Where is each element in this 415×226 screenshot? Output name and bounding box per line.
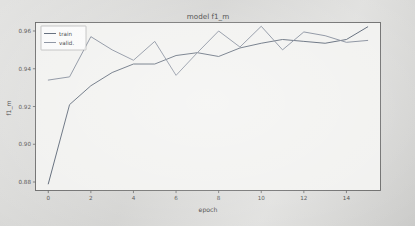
legend: train valid.: [41, 26, 86, 50]
legend-label-valid: valid.: [59, 40, 74, 46]
plot-area-background: [36, 23, 381, 191]
y-tick-label: 0.88: [19, 179, 32, 185]
x-tick-label: 2: [89, 195, 93, 201]
x-tick-label: 4: [132, 195, 136, 201]
x-tick-label: 10: [258, 195, 266, 201]
y-tick-label: 0.94: [19, 66, 32, 72]
y-tick-label: 0.96: [19, 28, 32, 34]
chart-title: model f1_m: [187, 12, 229, 21]
line-chart: model f1_m 0.880.900.920.940.96 02468101…: [0, 0, 415, 226]
x-tick-label: 6: [174, 195, 178, 201]
y-tick-label: 0.90: [19, 141, 32, 147]
chart-figure: model f1_m 0.880.900.920.940.96 02468101…: [0, 0, 415, 226]
x-axis-ticks: 02468101214: [46, 191, 350, 201]
y-axis-ticks: 0.880.900.920.940.96: [19, 28, 36, 185]
x-axis-label: epoch: [199, 206, 218, 214]
x-tick-label: 8: [217, 195, 221, 201]
x-tick-label: 14: [343, 195, 351, 201]
x-tick-label: 0: [46, 195, 50, 201]
y-axis-label: f1_m: [5, 100, 13, 115]
legend-background: [41, 26, 86, 50]
legend-label-train: train: [59, 31, 72, 37]
y-tick-label: 0.92: [19, 104, 31, 110]
x-tick-label: 12: [300, 195, 307, 201]
